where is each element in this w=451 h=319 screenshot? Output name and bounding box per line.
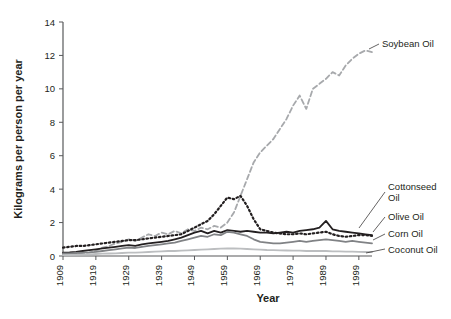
- x-tick-label: 1959: [218, 265, 229, 286]
- x-tick-label: 1919: [87, 265, 98, 286]
- x-tick-label: 1939: [153, 265, 164, 286]
- series-label-soybean: Soybean Oil: [382, 38, 434, 49]
- x-tick-label: 1909: [54, 265, 65, 286]
- chart-container: 02468101214 1909191919291939194919591969…: [0, 0, 451, 319]
- series-label-cottonseed-line2: Oil: [388, 192, 400, 203]
- x-tick-label: 1929: [120, 265, 131, 286]
- y-tick-label: 10: [44, 83, 55, 94]
- y-tick-label: 14: [44, 17, 55, 28]
- y-tick-label: 4: [50, 184, 55, 195]
- series-label-corn: Corn Oil: [388, 228, 423, 239]
- x-tick-label: 1969: [251, 265, 262, 286]
- x-tick-label: 1979: [284, 265, 295, 286]
- series-label-coconut: Coconut Oil: [388, 244, 438, 255]
- x-tick-label: 1989: [317, 265, 328, 286]
- x-tick-label: 1949: [185, 265, 196, 286]
- series-label-cottonseed-line1: Cottonseed: [388, 181, 437, 192]
- series-label-olive: Olive Oil: [388, 211, 424, 222]
- y-tick-label: 6: [50, 150, 55, 161]
- y-tick-label: 12: [44, 50, 55, 61]
- x-tick-label: 1999: [350, 265, 361, 286]
- x-axis-title: Year: [256, 292, 280, 304]
- y-tick-label: 8: [50, 117, 55, 128]
- y-tick-label: 2: [50, 217, 55, 228]
- y-tick-label: 0: [50, 251, 55, 262]
- oils-consumption-line-chart: 02468101214 1909191919291939194919591969…: [0, 0, 451, 319]
- y-axis-title: Kilograms per person per year: [12, 59, 24, 219]
